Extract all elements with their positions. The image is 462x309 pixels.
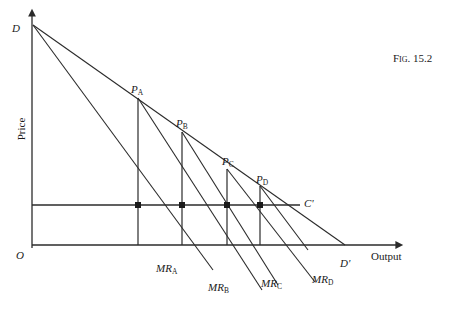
price-point-label-c: PC [222,156,234,168]
figure-caption: Fig. 15.2 [393,52,432,64]
origin-label: O [16,250,24,261]
figure-caption-prefix: Fig. [393,52,410,64]
intersection-marker-d [257,202,263,208]
intersection-marker-b [179,202,185,208]
figure-caption-number: 15.2 [413,52,432,64]
mr-label-a: MRA [156,263,177,275]
y-axis-label: Price [15,99,27,159]
mr-curve-a [33,25,213,270]
figure-canvas: D D' C' PA PB PC PD MRA MRB MRC MRD Pric… [0,0,462,309]
mr-label-b: MRB [208,282,229,294]
mr-curve-e [260,186,308,250]
price-point-label-a: PA [131,84,143,96]
cost-line-label: C' [304,198,314,209]
demand-start-label: D [12,23,20,34]
price-point-label-b: PB [176,118,188,130]
x-axis-label: Output [371,251,402,262]
mr-curve-c [182,132,278,285]
mr-label-d: MRD [312,274,333,286]
diagram-svg [0,0,462,309]
intersection-marker-c [224,202,230,208]
mr-label-c: MRC [261,278,282,290]
price-point-label-d: PD [256,174,268,186]
intersection-marker-a [135,202,141,208]
demand-curve [33,25,345,245]
demand-end-label: D' [340,258,350,269]
